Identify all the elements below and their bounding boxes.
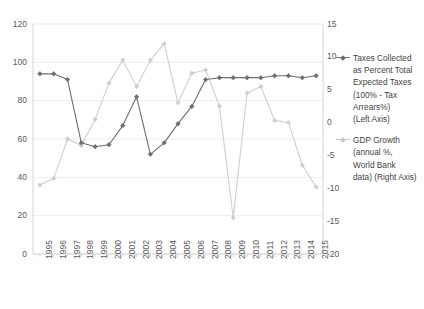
legend-label-line: Taxes Collected (353, 52, 424, 64)
data-point (38, 72, 43, 77)
y-left-tick-label: 120 (5, 19, 27, 29)
data-point (134, 84, 139, 89)
y-left-tick-label: 100 (5, 57, 27, 67)
x-tick-label: 1998 (85, 240, 95, 259)
x-tick-label: 2014 (306, 240, 316, 259)
axis-lines (33, 24, 323, 257)
y-right-tick-label: 15 (327, 19, 351, 29)
data-point (93, 117, 98, 122)
data-point (272, 118, 277, 123)
data-point (93, 144, 98, 149)
data-point (134, 95, 139, 100)
data-point (286, 73, 291, 78)
y-left-tick-label: 20 (5, 210, 27, 220)
data-point (245, 75, 250, 80)
legend-label-line: (annual %, (353, 146, 424, 158)
data-point (51, 72, 56, 77)
data-point (190, 71, 195, 76)
data-point (38, 183, 43, 188)
x-tick-label: 2000 (113, 240, 123, 259)
data-point (65, 137, 70, 142)
x-tick-label: 2015 (320, 240, 330, 259)
x-tick-label: 2006 (196, 240, 206, 259)
data-point (176, 101, 181, 106)
gridlines (33, 24, 323, 254)
legend-label-line: Arrears%) (353, 101, 424, 113)
x-tick-label: 2002 (141, 240, 151, 259)
legend-label-line: (100% - Tax (353, 89, 424, 101)
data-point (314, 73, 319, 78)
x-tick-label: 2008 (223, 240, 233, 259)
data-point (217, 75, 222, 80)
data-point (217, 104, 222, 109)
data-point (231, 216, 236, 221)
legend-entry-2[interactable]: GDP Growth(annual %,World Bankdata) (Rig… (336, 134, 424, 183)
x-tick-label: 2005 (182, 240, 192, 259)
series-layer (38, 41, 319, 220)
data-point (231, 75, 236, 80)
chart-container: 020406080100120 -20-15-10-5051015 199519… (0, 0, 424, 309)
x-tick-label: 2013 (292, 240, 302, 259)
x-tick-label: 1995 (44, 240, 54, 259)
data-point (203, 68, 208, 73)
data-point (300, 75, 305, 80)
legend-label-line: data) (Right Axis) (353, 171, 424, 183)
data-point (65, 77, 70, 82)
legend-label-line: (Left Axis) (353, 113, 424, 125)
x-tick-label: 1999 (99, 240, 109, 259)
x-tick-label: 2010 (251, 240, 261, 259)
y-right-tick-label: -20 (327, 249, 351, 259)
data-point (245, 91, 250, 96)
legend-entry-1[interactable]: Taxes Collectedas Percent TotalExpected … (336, 52, 424, 125)
data-point (203, 77, 208, 82)
legend-label-line: as Percent Total (353, 64, 424, 76)
x-tick-label: 2001 (127, 240, 137, 259)
legend-label-line: World Bank (353, 159, 424, 171)
y-left-tick-label: 40 (5, 172, 27, 182)
x-tick-label: 1996 (58, 240, 68, 259)
data-point (51, 176, 56, 181)
x-tick-label: 2012 (279, 240, 289, 259)
x-tick-label: 2011 (265, 241, 275, 259)
legend-marker-icon (336, 57, 350, 58)
y-left-tick-label: 60 (5, 134, 27, 144)
x-tick-label: 2007 (210, 240, 220, 259)
data-point (259, 75, 264, 80)
legend-marker-icon (336, 139, 350, 140)
x-tick-label: 2004 (168, 240, 178, 259)
x-tick-label: 1997 (72, 240, 82, 259)
chart-legend: Taxes Collectedas Percent TotalExpected … (336, 52, 424, 192)
legend-label-line: Expected Taxes (353, 76, 424, 88)
x-tick-label: 2009 (237, 240, 247, 259)
data-point (259, 84, 264, 89)
legend-label-line: GDP Growth (353, 134, 424, 146)
data-point (286, 120, 291, 125)
y-left-tick-label: 0 (5, 249, 27, 259)
y-left-tick-label: 80 (5, 95, 27, 105)
series-line-2 (40, 44, 316, 218)
y-right-tick-label: -15 (327, 216, 351, 226)
x-tick-label: 2003 (154, 240, 164, 259)
data-point (272, 73, 277, 78)
